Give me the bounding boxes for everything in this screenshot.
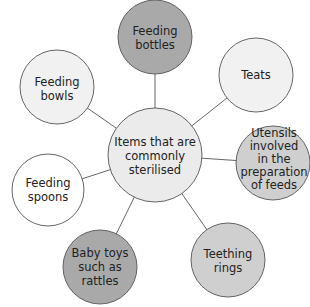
- node-utensils: Utensils involved in the preparation of …: [236, 126, 310, 200]
- node-label: in the: [257, 152, 290, 166]
- spider-diagram: Feeding bottles Teats Utensils involved …: [0, 0, 310, 307]
- node-feeding-bottles: Feeding bottles: [118, 0, 192, 74]
- node-label: Teats: [240, 68, 271, 82]
- node-baby-toys: Baby toys such as rattles: [63, 230, 137, 304]
- node-label: rattles: [81, 274, 118, 288]
- node-label: bowls: [41, 89, 74, 103]
- center-label: Items that are: [114, 135, 195, 149]
- node-label: Teething: [203, 247, 253, 261]
- node-label: bottles: [135, 38, 175, 52]
- node-label: preparation: [240, 165, 307, 179]
- node-teething-rings: Teething rings: [191, 223, 265, 297]
- node-label: Feeding: [34, 75, 79, 89]
- node-label: rings: [214, 261, 243, 275]
- center-node: Items that are commonly sterilised: [108, 108, 202, 202]
- center-label: sterilised: [129, 163, 181, 177]
- node-label: involved: [250, 139, 299, 153]
- node-label: Feeding: [25, 176, 70, 190]
- node-label: Feeding: [132, 24, 177, 38]
- node-label: Utensils: [251, 126, 297, 140]
- center-label: commonly: [125, 149, 185, 163]
- node-feeding-bowls: Feeding bowls: [20, 50, 94, 124]
- node-label: of feeds: [251, 178, 297, 192]
- node-label: spoons: [28, 190, 69, 204]
- node-label: Baby toys: [71, 246, 128, 260]
- node-teats: Teats: [219, 38, 293, 112]
- node-feeding-spoons: Feeding spoons: [12, 154, 84, 226]
- node-label: such as: [78, 260, 122, 274]
